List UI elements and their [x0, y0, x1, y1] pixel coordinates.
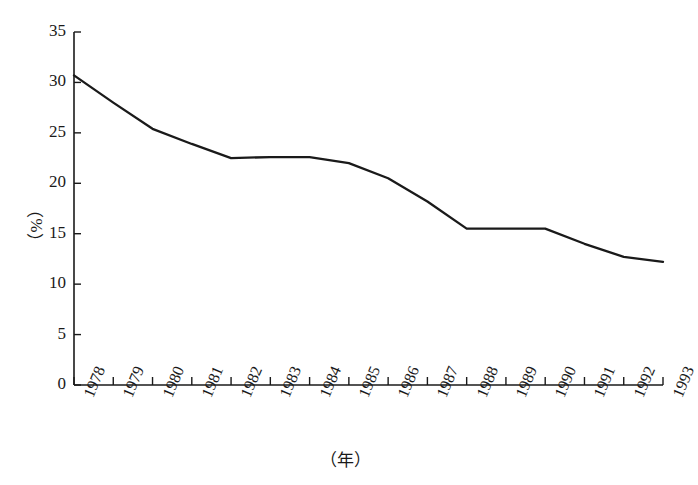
y-tick-label: 35 [26, 21, 66, 41]
y-tick-label: 20 [26, 172, 66, 192]
y-tick-label: 15 [26, 223, 66, 243]
axes [74, 32, 663, 385]
y-tick-label: 5 [26, 324, 66, 344]
series-line [74, 75, 663, 262]
y-tick-label: 10 [26, 273, 66, 293]
y-tick-label: 30 [26, 71, 66, 91]
y-axis-ticks [74, 32, 81, 385]
y-tick-label: 25 [26, 122, 66, 142]
data-series [74, 75, 663, 262]
y-tick-label: 0 [26, 374, 66, 394]
